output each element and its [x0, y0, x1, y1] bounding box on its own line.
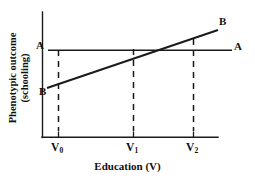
series-a-left-label: A	[36, 40, 44, 51]
phenotype-education-line-chart: A A B B V0 V1 V2 Education (V) Phenotypi…	[0, 0, 255, 180]
series-line-b	[47, 30, 218, 88]
x-tick-label-v1: V1	[126, 142, 138, 154]
x-axis-title: Education (V)	[0, 161, 255, 172]
series-b-right-label: B	[219, 16, 227, 27]
series-b-left-label: B	[39, 86, 47, 97]
y-axis-title: Phenotypic outcome (schooling)	[8, 13, 30, 143]
y-axis-title-line1: Phenotypic outcome	[7, 33, 18, 124]
y-axis-title-line2: (schooling)	[20, 13, 31, 143]
x-tick-label-v2: V2	[186, 142, 198, 154]
series-a-right-label: A	[234, 41, 242, 52]
x-tick-label-v0: V0	[51, 142, 63, 154]
